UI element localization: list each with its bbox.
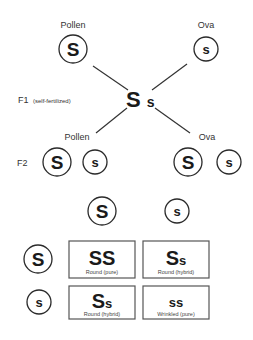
f2-pollen-allele-recessive: s xyxy=(91,155,98,170)
parent-pollen-allele: S xyxy=(67,39,80,60)
f1-genotype: S s xyxy=(126,87,155,112)
f2-ova-allele-dominant: S xyxy=(182,152,195,173)
parent-ova-label: Ova xyxy=(198,20,215,30)
punnett-cell-1-genotype: SS xyxy=(89,247,116,269)
punnett-cell-3-caption: Round (hybrid) xyxy=(84,311,121,317)
f2-label: F2 xyxy=(17,158,28,168)
f1-note: (self-fertilized) xyxy=(33,98,71,104)
punnett-col-header-dominant-allele: S xyxy=(96,201,109,222)
punnett-row-header-dominant-allele: S xyxy=(32,249,45,270)
f1-recessive-allele: s xyxy=(147,94,155,110)
f2-ova-allele-recessive: s xyxy=(225,155,232,170)
connector-f1-to-ova xyxy=(155,108,190,133)
parent-pollen-label: Pollen xyxy=(60,20,85,30)
f1-label: F1 (self-fertilized) xyxy=(18,95,71,105)
f1-dominant-allele: S xyxy=(126,87,141,112)
parent-ova-allele: s xyxy=(202,42,209,57)
punnett-col-header-recessive-allele: s xyxy=(173,204,180,219)
f1-generation-label: F1 xyxy=(18,95,29,105)
punnett-diagram: Pollen S Ova s F1 (self-fertilized) S s … xyxy=(0,0,253,340)
f2-pollen-allele-dominant: S xyxy=(51,152,64,173)
connector-ova-to-f1 xyxy=(152,64,187,90)
punnett-cell-1-caption: Round (pure) xyxy=(86,269,119,275)
connector-pollen-to-f1 xyxy=(93,66,128,90)
f2-pollen-label: Pollen xyxy=(64,132,89,142)
f2-ova-label: Ova xyxy=(199,132,216,142)
punnett-cell-4-genotype: ss xyxy=(169,295,183,310)
connector-f1-to-pollen xyxy=(96,108,127,133)
punnett-cell-2-caption: Round (hybrid) xyxy=(158,269,195,275)
punnett-cell-4-caption: Wrinkled (pure) xyxy=(157,311,195,317)
punnett-row-header-recessive-allele: s xyxy=(35,295,42,310)
